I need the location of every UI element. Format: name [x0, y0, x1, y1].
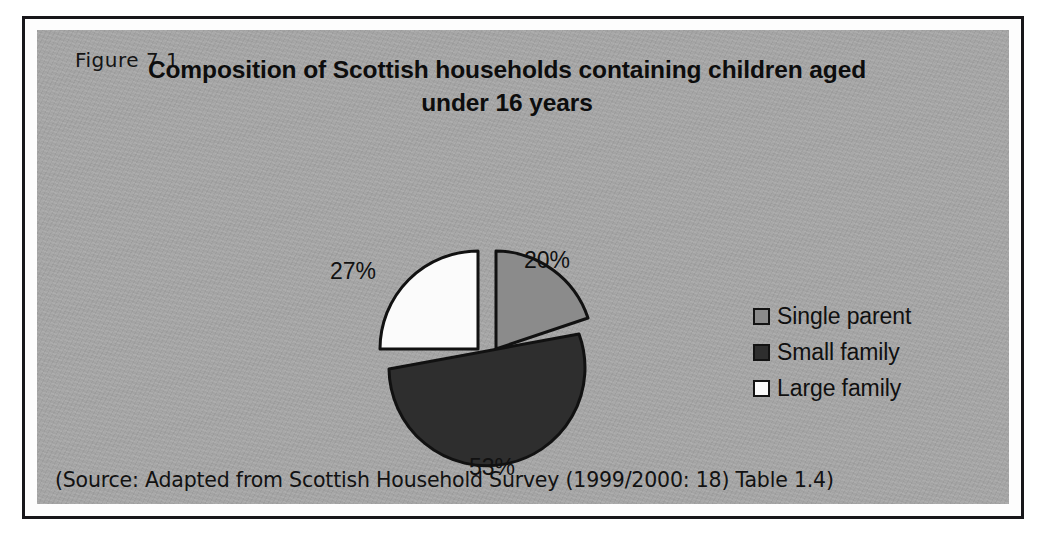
legend-item-single-parent: Single parent — [753, 298, 911, 334]
chart-legend: Single parent Small family Large family — [753, 298, 911, 406]
pie-chart-svg — [337, 230, 637, 480]
legend-label-large-family: Large family — [777, 375, 901, 402]
legend-swatch-small-family — [753, 344, 770, 361]
legend-label-small-family: Small family — [777, 339, 900, 366]
legend-swatch-single-parent — [753, 308, 770, 325]
source-caption: (Source: Adapted from Scottish Household… — [55, 468, 834, 492]
figure-frame: Figure 7.1 Composition of Scottish house… — [22, 16, 1024, 519]
pie-slice-large-family — [380, 251, 478, 349]
chart-panel: Figure 7.1 Composition of Scottish house… — [37, 30, 1009, 504]
legend-label-single-parent: Single parent — [777, 303, 911, 330]
legend-item-large-family: Large family — [753, 370, 911, 406]
legend-item-small-family: Small family — [753, 334, 911, 370]
pie-chart — [337, 230, 637, 480]
legend-swatch-large-family — [753, 380, 770, 397]
chart-title: Composition of Scottish households conta… — [137, 54, 877, 120]
pie-slice-small-family — [389, 334, 585, 466]
pie-label-single-parent: 20% — [524, 247, 570, 274]
pie-label-large-family: 27% — [330, 258, 376, 285]
